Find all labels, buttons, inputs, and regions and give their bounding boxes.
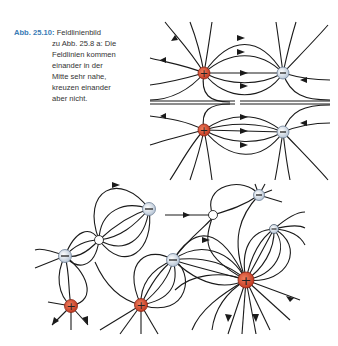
positive-charge: + — [198, 67, 210, 79]
neutral-point — [95, 236, 104, 245]
positive-charge: + — [198, 124, 210, 136]
arrowheads — [52, 35, 307, 325]
negative-charge — [270, 225, 279, 234]
negative-charge — [277, 126, 289, 138]
negative-charge — [167, 254, 180, 267]
svg-text:+: + — [66, 300, 75, 313]
svg-text:+: + — [200, 68, 208, 79]
field-line-diagram: + + — [0, 0, 338, 346]
svg-text:+: + — [241, 273, 252, 288]
positive-charge: + — [65, 300, 78, 314]
negative-charge — [277, 67, 289, 79]
svg-text:+: + — [136, 299, 145, 312]
negative-charge — [254, 190, 265, 201]
neutral-point — [209, 211, 218, 220]
svg-text:+: + — [200, 125, 208, 136]
positive-charge: + — [238, 272, 254, 288]
positive-charge: + — [135, 299, 148, 313]
top-field-lines — [150, 22, 330, 180]
negative-charge — [59, 250, 72, 263]
negative-charge — [143, 203, 156, 216]
